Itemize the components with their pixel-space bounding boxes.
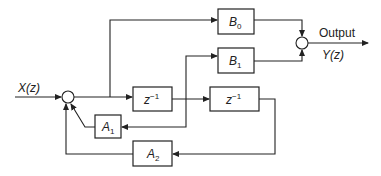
block-delay-2: z−1	[210, 87, 259, 111]
output-summing-junction	[296, 37, 308, 49]
block-b0: B0	[218, 9, 254, 34]
block-diagram: X(z) B0 B1 z−1 z−1 A1 A2	[0, 0, 381, 176]
input-label: X(z)	[17, 81, 40, 95]
input-summing-junction	[62, 91, 74, 103]
block-b1: B1	[218, 48, 254, 73]
block-a1: A1	[95, 115, 121, 138]
wire-b1-to-output-sum	[254, 50, 302, 61]
wire-b0-to-output-sum	[254, 20, 302, 36]
wire-a1-to-sum	[71, 104, 95, 127]
output-signal-label: Y(z)	[322, 48, 344, 62]
wire-to-b0	[110, 20, 217, 97]
output-label: Output	[319, 26, 356, 40]
block-a2: A2	[133, 141, 172, 166]
block-delay-1: z−1	[133, 87, 172, 111]
